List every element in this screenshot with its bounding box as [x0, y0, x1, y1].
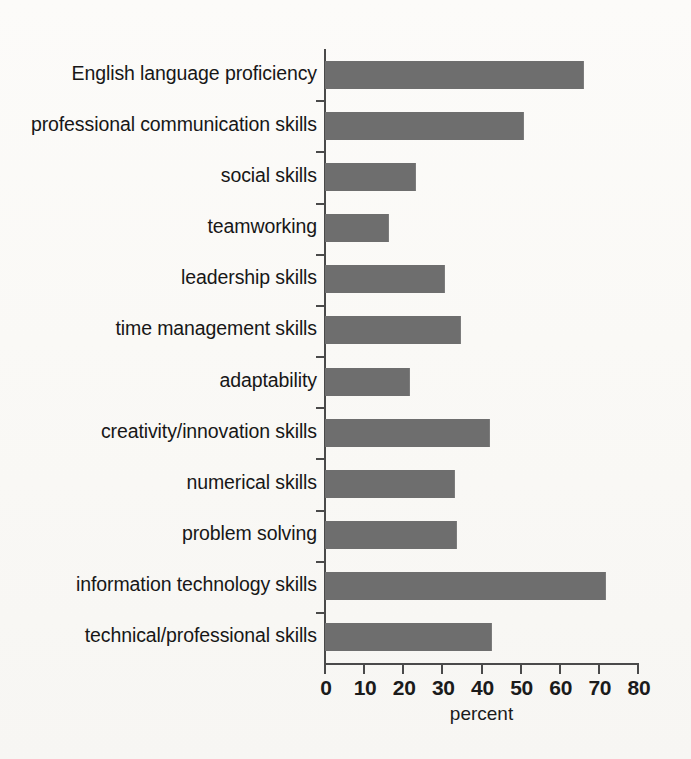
bar [325, 521, 456, 549]
x-axis-tick [559, 663, 561, 674]
x-axis-tick [520, 663, 522, 674]
bar-fill [325, 265, 445, 293]
category-label: creativity/innovation skills [101, 420, 317, 443]
bar [325, 265, 444, 293]
y-axis-tick [316, 356, 325, 358]
bar-fill [325, 163, 416, 191]
bar [325, 61, 583, 89]
x-axis-title: percent [325, 703, 638, 725]
bar-fill [325, 419, 490, 447]
bar-fill [325, 112, 524, 140]
y-axis-tick [316, 612, 325, 614]
x-axis-tick [363, 663, 365, 674]
bar [325, 623, 491, 651]
x-axis-tick [598, 663, 600, 674]
x-axis-tick-label: 80 [609, 676, 669, 700]
y-axis-tick [316, 254, 325, 256]
category-label: professional communication skills [31, 113, 317, 136]
category-label: leadership skills [181, 266, 317, 289]
x-axis-tick [402, 663, 404, 674]
x-axis-tick [324, 663, 326, 674]
bar [325, 112, 523, 140]
x-axis-tick [481, 663, 483, 674]
bar [325, 163, 415, 191]
x-axis-tick [441, 663, 443, 674]
category-label: information technology skills [76, 573, 317, 596]
bar [325, 470, 454, 498]
y-axis-tick [316, 203, 325, 205]
bar [325, 368, 409, 396]
bar [325, 419, 489, 447]
bar-fill [325, 214, 389, 242]
bar-fill [325, 623, 492, 651]
category-label: problem solving [182, 522, 317, 545]
bar-fill [325, 316, 461, 344]
category-label: English language proficiency [72, 62, 317, 85]
bar [325, 572, 605, 600]
bar-fill [325, 368, 410, 396]
horizontal-bar-chart: percent 01020304050607080English languag… [0, 0, 691, 759]
plot-area [325, 49, 638, 663]
y-axis-tick [316, 407, 325, 409]
category-label: adaptability [220, 369, 317, 392]
bar-fill [325, 572, 606, 600]
category-label: technical/professional skills [85, 624, 317, 647]
bar-fill [325, 61, 584, 89]
y-axis-tick [316, 458, 325, 460]
category-label: social skills [221, 164, 317, 187]
category-label: time management skills [115, 317, 317, 340]
y-axis-tick [316, 305, 325, 307]
bar [325, 316, 460, 344]
bar-fill [325, 470, 455, 498]
x-axis-tick [637, 663, 639, 674]
bar [325, 214, 388, 242]
y-axis-tick [316, 561, 325, 563]
y-axis-tick [316, 100, 325, 102]
bar-fill [325, 521, 457, 549]
category-label: numerical skills [186, 471, 317, 494]
y-axis-tick [316, 151, 325, 153]
y-axis-tick [316, 510, 325, 512]
category-label: teamworking [208, 215, 317, 238]
